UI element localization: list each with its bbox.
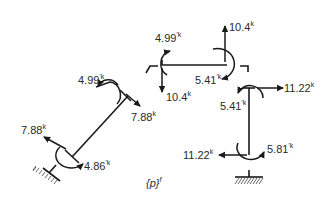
left-fixed-support [33, 165, 60, 184]
left-top-moment-arrow [96, 80, 120, 104]
right-top-force-label: 11.22k [284, 81, 315, 94]
right-base-moment-arrow [237, 143, 264, 160]
diagram-title: {p}f [146, 176, 162, 189]
right-fixed-support [235, 170, 263, 184]
left-base-moment-label: 4.86'k [84, 159, 111, 172]
left-base-force-arrow [44, 137, 66, 149]
beam-left-moment-label: 4.99'k [155, 31, 182, 44]
beam-left-shear-label: 10.4k [166, 90, 191, 103]
left-top-force-arrow [126, 94, 140, 106]
left-top-force-label: 7.88k [131, 110, 156, 123]
right-base-force-label: 11.22k [183, 148, 214, 161]
left-top-moment-label: 4.99'k [78, 73, 105, 86]
right-top-moment-label: 5.41'k [220, 99, 247, 112]
beam-right-shear-label: 10.4k [229, 20, 254, 33]
left-base-force-label: 7.88k [21, 123, 46, 136]
beam [162, 60, 227, 65]
right-joint-bracket [240, 66, 248, 72]
right-base-moment-label: 5.81'k [267, 142, 294, 155]
left-joint-bracket [146, 66, 158, 73]
beam-right-moment-label: 5.41'k [195, 73, 222, 86]
free-body-diagram: 7.88k 4.86'k 4.99'k 7.88k 4.99'k 10.4k 1… [0, 0, 329, 206]
left-inclined-column [65, 90, 131, 163]
